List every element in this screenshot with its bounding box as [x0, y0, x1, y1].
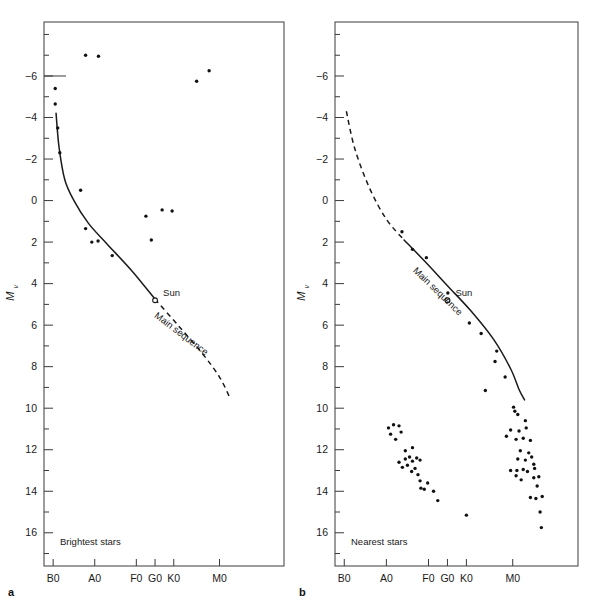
data-point: [406, 464, 409, 467]
y-tick-label: −4: [316, 111, 328, 123]
data-point: [509, 469, 512, 472]
hr-diagram-figure: −6−4−20246810121416B0A0F0G0K0M0MvSunMain…: [0, 0, 594, 605]
main-sequence-solid-b: [404, 240, 524, 400]
x-tick-label: F0: [130, 572, 142, 584]
data-point: [513, 410, 516, 413]
data-point: [516, 457, 519, 460]
data-point: [54, 87, 57, 90]
y-tick-label: −2: [25, 153, 37, 165]
data-point: [436, 499, 439, 502]
data-point: [397, 460, 400, 463]
data-point: [524, 419, 527, 422]
data-point: [90, 240, 93, 243]
y-tick-label: 4: [31, 277, 37, 289]
panel-a-letter: a: [8, 586, 14, 598]
y-tick-label: 8: [322, 360, 328, 372]
y-tick-label: −2: [316, 153, 328, 165]
data-point: [150, 238, 153, 241]
panel-b: −6−4−20246810121416B0A0F0G0K0M0MvSunMain…: [295, 22, 578, 584]
data-point: [515, 469, 518, 472]
data-point: [537, 475, 540, 478]
x-tick-label: K0: [167, 572, 180, 584]
y-tick-label: 16: [25, 526, 37, 538]
data-point: [519, 478, 522, 481]
data-point: [533, 467, 536, 470]
data-point: [419, 486, 422, 489]
data-point: [170, 209, 173, 212]
data-point: [404, 457, 407, 460]
data-point: [532, 463, 535, 466]
data-point: [415, 456, 418, 459]
data-point: [111, 254, 114, 257]
data-point: [207, 69, 210, 72]
data-point: [512, 405, 515, 408]
data-point: [525, 426, 528, 429]
y-tick-label: −4: [25, 111, 37, 123]
data-point: [58, 151, 61, 154]
main-sequence-solid-a: [56, 113, 155, 299]
data-point: [404, 449, 407, 452]
data-point: [56, 126, 59, 129]
data-point: [522, 468, 525, 471]
data-point: [465, 513, 468, 516]
data-point: [425, 256, 428, 259]
panel-b-letter: b: [299, 586, 306, 598]
sun-label: Sun: [163, 287, 180, 298]
data-point: [514, 438, 517, 441]
y-tick-label: 14: [25, 485, 37, 497]
y-tick-label: 12: [25, 443, 37, 455]
y-tick-label: 14: [316, 485, 328, 497]
data-point: [387, 426, 390, 429]
data-point: [519, 449, 522, 452]
data-point: [530, 455, 533, 458]
sun-label: Sun: [455, 287, 472, 298]
y-tick-label: 4: [322, 277, 328, 289]
y-tick-label: 6: [31, 319, 37, 331]
main-sequence-label: Main sequence: [153, 310, 211, 358]
data-point: [426, 481, 429, 484]
data-point: [411, 446, 414, 449]
data-point: [535, 484, 538, 487]
x-tick-label: M0: [505, 572, 520, 584]
y-tick-label: 8: [31, 360, 37, 372]
x-tick-label: G0: [148, 572, 162, 584]
data-point: [418, 479, 421, 482]
data-point: [389, 432, 392, 435]
data-point: [514, 474, 517, 477]
sun-marker: [153, 298, 158, 303]
data-point: [532, 476, 535, 479]
y-tick-label: −6: [316, 70, 328, 82]
y-tick-label: 6: [322, 319, 328, 331]
data-point: [413, 467, 416, 470]
data-point: [399, 430, 402, 433]
y-tick-label: −6: [25, 70, 37, 82]
data-point: [527, 451, 530, 454]
y-tick-label: 10: [25, 402, 37, 414]
data-point: [97, 55, 100, 58]
x-tick-label: F0: [422, 572, 434, 584]
x-tick-label: B0: [47, 572, 60, 584]
data-point: [400, 230, 403, 233]
panel-caption-a: Brightest stars: [60, 536, 121, 547]
data-point: [84, 227, 87, 230]
data-point: [529, 496, 532, 499]
data-point: [418, 458, 421, 461]
y-tick-label: 0: [322, 194, 328, 206]
x-tick-label: M0: [212, 572, 227, 584]
data-point: [495, 349, 498, 352]
hr-diagram-svg: −6−4−20246810121416B0A0F0G0K0M0MvSunMain…: [0, 0, 594, 605]
data-point: [493, 360, 496, 363]
data-point: [411, 248, 414, 251]
x-tick-label: G0: [440, 572, 454, 584]
data-point: [505, 435, 508, 438]
y-axis-label-b: Mv: [295, 284, 311, 301]
data-point: [423, 487, 426, 490]
data-point: [517, 429, 520, 432]
x-tick-label: A0: [88, 572, 101, 584]
data-point: [79, 188, 82, 191]
data-point: [541, 495, 544, 498]
data-point: [408, 455, 411, 458]
svg-text:v: v: [302, 284, 311, 289]
data-point: [397, 424, 400, 427]
data-point: [468, 321, 471, 324]
